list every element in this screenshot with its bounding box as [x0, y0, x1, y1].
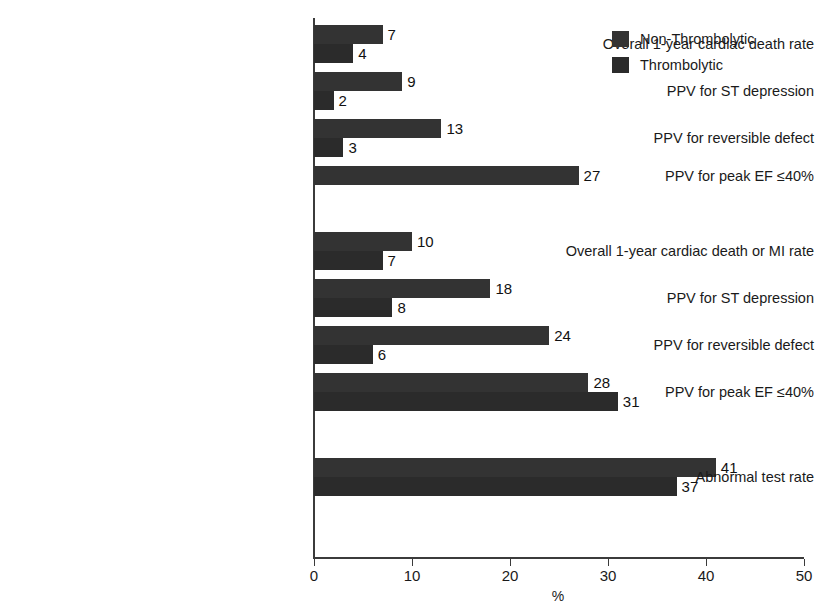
- bar-non-thrombolytic: [314, 25, 383, 44]
- bar-value-label: 10: [417, 233, 434, 250]
- category-label: Overall 1-year cardiac death or MI rate: [524, 243, 824, 259]
- category-label: PPV for ST depression: [524, 290, 824, 306]
- category-label: PPV for ST depression: [524, 83, 824, 99]
- bar-value-label: 4: [358, 45, 366, 62]
- bar-value-label: 2: [339, 92, 347, 109]
- bar-value-label: 7: [388, 26, 396, 43]
- x-axis-tick-label: 50: [796, 567, 813, 584]
- category-label: Abnormal test rate: [524, 469, 824, 485]
- plot-area: 01020304050 % 74921332710718824628314137…: [0, 0, 824, 610]
- bar-non-thrombolytic: [314, 279, 490, 298]
- x-axis-tick-label: 40: [698, 567, 715, 584]
- legend-label: Thrombolytic: [640, 57, 723, 73]
- bar-non-thrombolytic: [314, 72, 402, 91]
- x-axis-tick-label: 0: [310, 567, 318, 584]
- x-axis-line: [313, 557, 804, 559]
- bar-thrombolytic: [314, 251, 383, 270]
- x-axis-title: %: [552, 588, 564, 604]
- x-axis-tick: [608, 559, 609, 566]
- x-axis-tick: [510, 559, 511, 566]
- x-axis-tick: [412, 559, 413, 566]
- x-axis-tick: [706, 559, 707, 566]
- bar-non-thrombolytic: [314, 119, 441, 138]
- x-axis-tick-label: 10: [404, 567, 421, 584]
- category-label: PPV for reversible defect: [524, 337, 824, 353]
- bar-value-label: 13: [446, 120, 463, 137]
- bar-value-label: 3: [348, 139, 356, 156]
- legend-swatch-thrombolytic: [612, 57, 629, 73]
- bar-value-label: 6: [378, 346, 386, 363]
- bar-non-thrombolytic: [314, 232, 412, 251]
- bar-thrombolytic: [314, 44, 353, 63]
- bar-thrombolytic: [314, 91, 334, 110]
- category-label: PPV for peak EF ≤40%: [524, 384, 824, 400]
- bar-value-label: 8: [397, 299, 405, 316]
- bar-non-thrombolytic: [314, 326, 549, 345]
- bar-thrombolytic: [314, 138, 343, 157]
- bar-value-label: 9: [407, 73, 415, 90]
- legend: Non-Thrombolytic Thrombolytic: [612, 27, 754, 79]
- x-axis-tick: [314, 559, 315, 566]
- bar-chart: 01020304050 % 74921332710718824628314137…: [0, 0, 824, 610]
- legend-item: Non-Thrombolytic: [612, 27, 754, 50]
- bar-value-label: 18: [495, 280, 512, 297]
- bar-thrombolytic: [314, 298, 392, 317]
- legend-swatch-non-thrombolytic: [612, 31, 629, 47]
- bar-thrombolytic: [314, 345, 373, 364]
- x-axis-tick-label: 20: [502, 567, 519, 584]
- x-axis-tick: [804, 559, 805, 566]
- legend-label: Non-Thrombolytic: [640, 31, 754, 47]
- category-label: PPV for peak EF ≤40%: [524, 168, 824, 184]
- legend-item: Thrombolytic: [612, 53, 754, 76]
- x-axis-tick-label: 30: [600, 567, 617, 584]
- bar-value-label: 7: [388, 252, 396, 269]
- category-label: PPV for reversible defect: [524, 130, 824, 146]
